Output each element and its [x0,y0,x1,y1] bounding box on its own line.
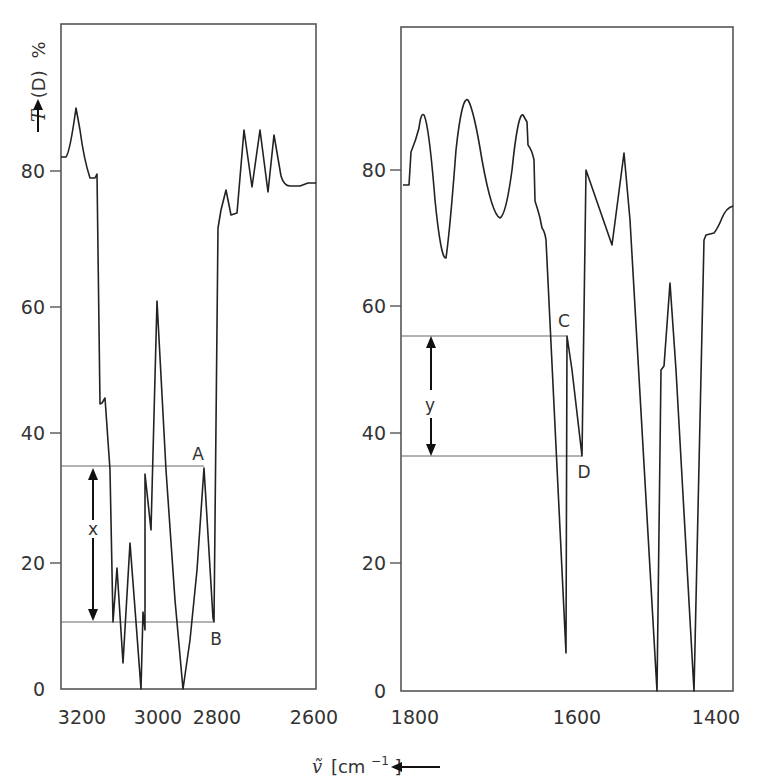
right-y-tick-0: 0 [374,680,386,702]
x-axis-title-text: ṽ [cm −1 ] [312,748,402,777]
left-x-ticks: 3200 3000 2800 2600 [58,706,338,728]
right-y-tick-80: 80 [362,159,386,181]
left-y-tick-80: 80 [21,160,45,182]
right-x-tick-1400: 1400 [692,706,740,728]
left-y-tick-20: 20 [21,552,45,574]
ir-spectrum-figure: T (D) % 80 60 40 20 0 3200 3000 2800 260… [0,0,769,782]
left-x-tick-2800: 2800 [193,706,241,728]
right-y-tick-20: 20 [362,552,386,574]
point-C-label: C [558,311,570,331]
point-A-label: A [192,444,204,464]
right-spectrum-trace [403,100,733,691]
left-y-tick-60: 60 [21,296,45,318]
left-y-ticks: 80 60 40 20 0 [21,160,61,700]
right-y-tick-40: 40 [362,422,386,444]
span-x-label: x [88,519,98,539]
left-x-tick-3000: 3000 [134,706,182,728]
point-B-label: B [210,629,222,649]
left-x-tick-2600: 2600 [290,706,338,728]
span-x-arrow-icon [88,468,98,621]
right-y-tick-60: 60 [362,295,386,317]
right-x-tick-1600: 1600 [553,706,601,728]
left-x-tick-3200: 3200 [58,706,106,728]
right-x-tick-1800: 1800 [391,706,439,728]
left-y-tick-40: 40 [21,422,45,444]
left-panel: 80 60 40 20 0 3200 3000 2800 2600 x A B [21,24,338,728]
left-spectrum-trace [61,108,316,689]
right-panel: 80 60 40 20 0 1800 1600 1400 y C D [362,27,740,728]
x-axis-title: ṽ [cm −1 ] [312,748,402,777]
right-x-ticks: 1800 1600 1400 [391,706,740,728]
point-D-label: D [577,462,590,482]
span-y-label: y [425,395,435,415]
right-y-ticks: 80 60 40 20 0 [362,159,401,702]
left-y-tick-0: 0 [33,678,45,700]
